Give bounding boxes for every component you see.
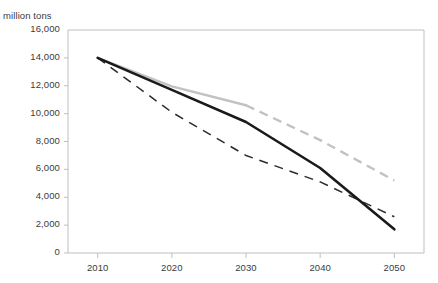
y-axis-tick-label: 8,000 [10,135,60,146]
x-axis-tick-label: 2020 [149,262,195,273]
y-axis-tick-label: 14,000 [10,51,60,62]
y-axis-tick-label: 12,000 [10,79,60,90]
y-axis-tick-label: 10,000 [10,107,60,118]
x-axis-tick-label: 2030 [223,262,269,273]
y-axis-tick-label: 6,000 [10,162,60,173]
x-axis-tick-label: 2010 [75,262,121,273]
y-axis-tick-label: 4,000 [10,190,60,201]
x-axis-tick-label: 2050 [371,262,417,273]
line-chart-canvas [0,0,438,283]
chart-plot-area: 16,00014,00012,00010,0008,0006,0004,0002… [0,0,438,283]
y-axis-tick-label: 0 [10,246,60,257]
series-gray-line-solid-segment [98,58,246,105]
y-axis-tick-label: 2,000 [10,218,60,229]
y-axis-tick-label: 16,000 [10,23,60,34]
series-solid-black-line [98,58,395,229]
x-axis-tick-label: 2040 [297,262,343,273]
